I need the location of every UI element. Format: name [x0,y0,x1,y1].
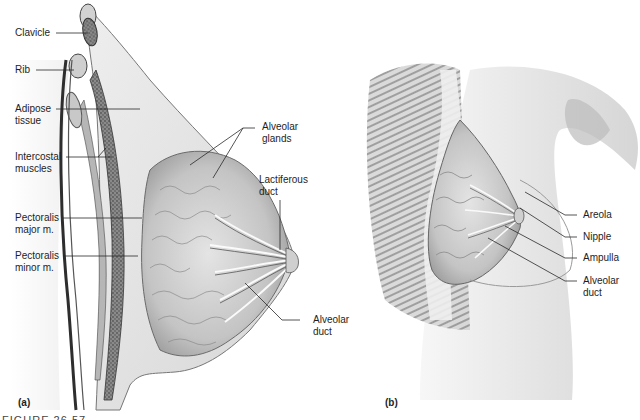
figure-caption: FIGURE 26.57 [2,411,86,420]
breast-anatomy-illustration [0,0,640,420]
label-areola: Areola [583,209,612,221]
panel-a-illustration [10,4,299,410]
label-alveolar-duct-b: Alveolar duct [583,275,619,299]
panel-tag-a: (a) [18,397,30,408]
label-pectoralis-major: Pectoralis major m. [15,212,59,236]
label-intercostal-muscles: Intercostal muscles [15,151,61,175]
label-ampulla: Ampulla [583,252,619,264]
label-adipose-tissue: Adipose tissue [15,103,51,127]
panel-tag-b: (b) [385,397,398,408]
label-rib: Rib [15,64,30,76]
label-pectoralis-minor: Pectoralis minor m. [15,250,59,274]
label-clavicle: Clavicle [15,27,50,39]
label-lactiferous-duct: Lactiferous duct [259,174,308,198]
anatomy-figure: Clavicle Rib Adipose tissue Intercostal … [0,0,640,420]
label-alveolar-duct-a: Alveolar duct [313,314,349,338]
label-alveolar-glands: Alveolar glands [262,121,298,145]
label-nipple: Nipple [583,231,611,243]
